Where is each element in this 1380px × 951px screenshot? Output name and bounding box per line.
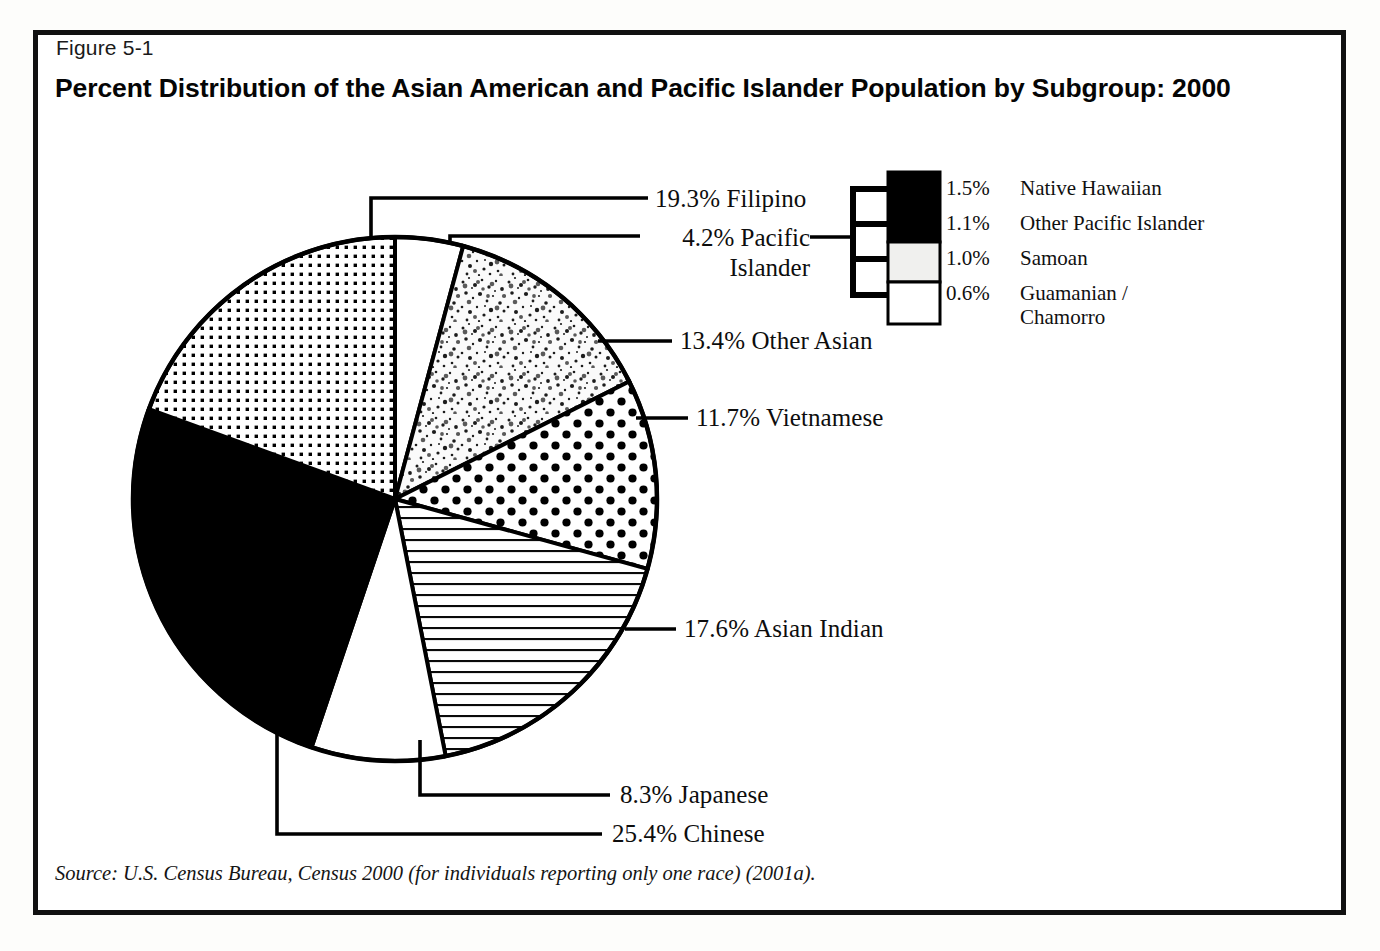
legend-swatch-solid-black [888, 172, 940, 242]
legend-label: Native Hawaiian [1020, 176, 1162, 201]
slice-label-other-asian: 13.4% Other Asian [680, 327, 873, 355]
slice-label-asian-indian: 17.6% Asian Indian [684, 615, 884, 643]
legend-swatch-white [888, 282, 940, 324]
slice-label-filipino: 19.3% Filipino [655, 185, 806, 213]
slice-label-chinese: 25.4% Chinese [612, 820, 765, 848]
pacific-islander-line-2: Islander [520, 253, 810, 283]
slice-label-pacific-islander: 4.2% Pacific Islander [520, 223, 810, 282]
slice-label-japanese: 8.3% Japanese [620, 781, 768, 809]
legend-label-line-2: Chamorro [1020, 305, 1105, 330]
legend-pct: 1.0% [946, 246, 1008, 271]
legend-label: Samoan [1020, 246, 1088, 271]
pacific-islander-line-1: 4.2% Pacific [520, 223, 810, 253]
pie-slices [133, 237, 657, 761]
legend-label: Guamanian / [1020, 281, 1128, 306]
legend-pct: 1.5% [946, 176, 1008, 201]
legend-pct: 1.1% [946, 211, 1008, 236]
slice-label-vietnamese: 11.7% Vietnamese [696, 404, 884, 432]
legend-label: Other Pacific Islander [1020, 211, 1204, 236]
legend-swatch-light-gray [888, 242, 940, 282]
legend-swatches [888, 172, 940, 324]
legend-pct: 0.6% [946, 281, 1008, 306]
figure-page: Figure 5-1 Percent Distribution of the A… [0, 0, 1380, 951]
source-note: Source: U.S. Census Bureau, Census 2000 … [55, 862, 816, 885]
legend-bracket [810, 186, 888, 298]
